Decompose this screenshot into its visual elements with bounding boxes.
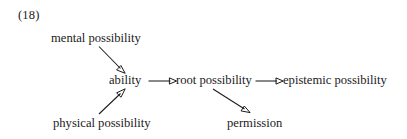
node-permission: permission (227, 116, 282, 130)
node-mental-possibility: mental possibility (51, 31, 141, 45)
node-epistemic-possibility: epistemic possibility (283, 73, 387, 87)
edge-root-to-permission (213, 89, 250, 113)
figure-canvas: (18) mental possibility physical poss (0, 0, 407, 139)
edge-physical-to-ability (99, 89, 125, 114)
node-ability: ability (109, 73, 141, 87)
node-root-possibility: root possibility (176, 73, 252, 87)
edge-root-to-epistemic (256, 78, 284, 84)
edge-mental-to-ability (99, 47, 125, 74)
node-physical-possibility: physical possibility (53, 116, 151, 130)
edge-ability-to-root (149, 78, 177, 84)
example-number: (18) (18, 8, 40, 22)
